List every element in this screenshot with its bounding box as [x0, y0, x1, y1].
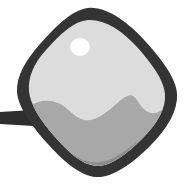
icon-canvas: Rounded Square Tag Icon Clip-art style g… — [0, 0, 194, 192]
specular-highlight-icon — [70, 38, 90, 56]
tag-icon — [0, 0, 194, 192]
